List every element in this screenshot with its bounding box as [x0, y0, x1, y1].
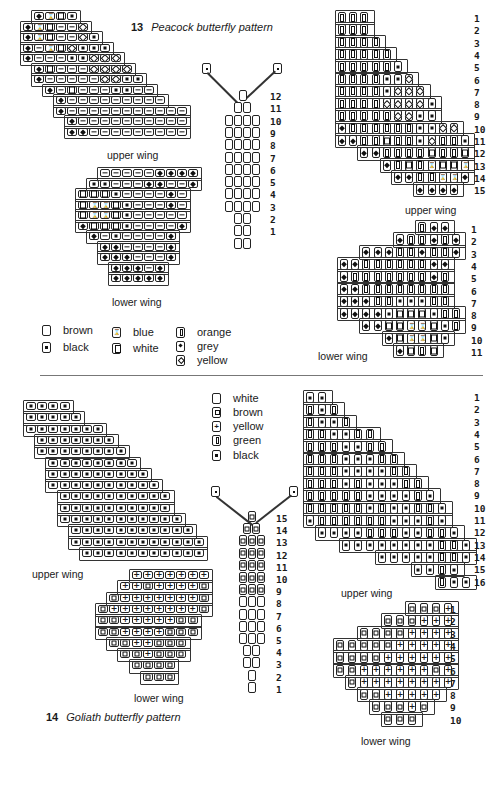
bead [144, 180, 154, 188]
bead [188, 616, 198, 624]
bead: + [188, 571, 198, 579]
bead [122, 201, 132, 209]
bead [225, 188, 233, 199]
bead [111, 222, 121, 230]
bead [248, 511, 256, 522]
bead [426, 490, 434, 501]
bead [383, 61, 391, 72]
bead [257, 548, 265, 559]
bead [362, 247, 370, 258]
bead [155, 274, 165, 282]
bead [441, 247, 449, 258]
bead [239, 584, 247, 595]
row-number: 1 [450, 604, 456, 615]
bead [306, 404, 314, 415]
bead [176, 639, 186, 647]
row-number: 5 [474, 62, 480, 73]
bead: ⌛ [45, 12, 55, 20]
bead [120, 639, 130, 647]
bead [48, 459, 58, 467]
bead [330, 527, 338, 538]
bead [138, 549, 148, 557]
bead [362, 284, 370, 295]
bead [111, 211, 121, 219]
bead [360, 61, 368, 72]
bead [71, 492, 81, 500]
bead [257, 609, 265, 620]
bead [133, 180, 143, 188]
bead [183, 526, 193, 534]
bead: + [432, 628, 440, 639]
bead: ⌛ [100, 201, 110, 209]
legend-white: white [212, 392, 259, 404]
bead [144, 253, 154, 261]
bead [336, 652, 344, 663]
bead [360, 628, 368, 639]
bead [360, 652, 368, 663]
bead [166, 232, 176, 240]
bead [98, 616, 108, 624]
row-number: 10 [450, 715, 461, 726]
bead [93, 425, 103, 433]
bead [160, 549, 170, 557]
bead [149, 538, 159, 546]
row-number: 9 [270, 128, 276, 139]
bead [396, 271, 404, 282]
bead: + [165, 594, 175, 602]
bead: ⌛ [34, 33, 44, 41]
bead [234, 102, 242, 113]
bead: + [384, 652, 392, 663]
bead [143, 582, 153, 590]
bead [138, 470, 148, 478]
row-number: 4 [276, 647, 282, 658]
bead [144, 232, 154, 240]
bead [342, 490, 350, 501]
peacock-upper-wing-right-label: upper wing [405, 204, 456, 216]
row-number: 2 [270, 214, 276, 225]
legend-black: black [42, 341, 89, 353]
bead [441, 271, 449, 282]
row-number: 14 [276, 525, 287, 536]
bead [390, 527, 398, 538]
row-number: 2 [474, 404, 480, 415]
bead [127, 504, 137, 512]
bead [252, 657, 260, 668]
bead [155, 180, 165, 188]
bead [78, 86, 88, 94]
bead [116, 526, 126, 534]
bead [165, 650, 175, 658]
bead [360, 24, 368, 35]
bead [143, 673, 153, 681]
row-number: 8 [474, 99, 480, 110]
bead [354, 490, 362, 501]
bead [306, 441, 314, 452]
bead [372, 61, 380, 72]
bead [71, 504, 81, 512]
bead [340, 271, 348, 282]
bead [194, 538, 204, 546]
bead [45, 65, 55, 73]
bead: ⌛ [428, 160, 436, 171]
bead [127, 481, 137, 489]
bead [438, 577, 446, 588]
row-number: 2 [474, 25, 480, 36]
bead [306, 417, 314, 428]
bead [330, 490, 338, 501]
bead [155, 222, 165, 230]
bead [225, 152, 233, 163]
bead [122, 65, 132, 73]
bead [396, 284, 404, 295]
bead [100, 117, 110, 125]
bead [100, 190, 110, 198]
bead: + [143, 571, 153, 579]
bead [378, 552, 386, 563]
bead [450, 147, 458, 158]
bead [71, 425, 81, 433]
bead [166, 211, 176, 219]
bead [82, 470, 92, 478]
bead [199, 594, 209, 602]
bead [60, 402, 70, 410]
bead [366, 441, 374, 452]
bead [372, 37, 380, 48]
bead [318, 404, 326, 415]
